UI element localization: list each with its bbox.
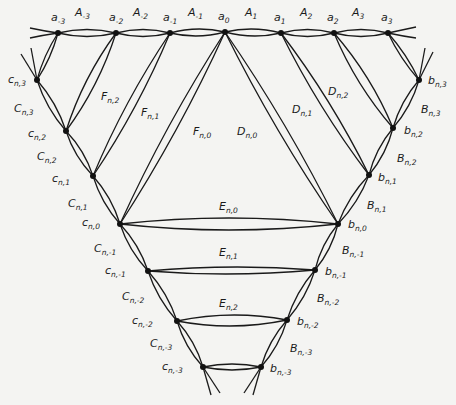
edge-B bbox=[261, 320, 287, 367]
edge-C bbox=[66, 131, 93, 176]
label-c: cn,-2 bbox=[132, 314, 153, 329]
edge-E bbox=[120, 218, 338, 224]
edge-C bbox=[120, 224, 148, 271]
label-A: A3 bbox=[351, 6, 365, 21]
edge-A bbox=[170, 32, 225, 36]
edge-E bbox=[177, 315, 287, 321]
label-c: cn,0 bbox=[82, 216, 100, 231]
label-c: cn,3 bbox=[8, 73, 26, 88]
labels-layer: a-3a-2a-1a0a1a2a3A-3A-2A-1A1A2A3cn,3cn,2… bbox=[8, 6, 447, 377]
vertex-b-1 bbox=[312, 267, 318, 273]
label-B: Bn,2 bbox=[397, 152, 417, 167]
label-A: A-1 bbox=[187, 6, 203, 21]
edge-C bbox=[120, 224, 148, 271]
edge-F bbox=[93, 33, 170, 176]
label-D: Dn,2 bbox=[328, 85, 349, 100]
label-C: Cn,-3 bbox=[150, 337, 173, 352]
vertex-a2 bbox=[331, 30, 337, 36]
label-b: bn,0 bbox=[348, 218, 367, 233]
label-a: a-2 bbox=[109, 11, 123, 26]
label-E: En,2 bbox=[219, 297, 238, 312]
label-b: bn,3 bbox=[428, 74, 447, 89]
edge-E bbox=[148, 267, 315, 271]
edge-C bbox=[93, 176, 120, 224]
edge-C-end bbox=[203, 367, 220, 393]
label-b: bn,1 bbox=[378, 171, 397, 186]
edge-B bbox=[287, 270, 315, 320]
label-A: A1 bbox=[244, 6, 257, 21]
edge-D bbox=[388, 33, 419, 80]
edge-E bbox=[148, 270, 315, 274]
edge-B bbox=[369, 128, 393, 175]
edge-A-end bbox=[388, 27, 416, 33]
edge-B-end bbox=[253, 367, 261, 395]
vertex-c1 bbox=[90, 173, 96, 179]
vertex-b-3 bbox=[258, 364, 264, 370]
edge-F bbox=[120, 32, 225, 224]
label-b: bn,-2 bbox=[297, 315, 319, 330]
label-A: A-2 bbox=[132, 6, 148, 21]
vertex-c3 bbox=[34, 77, 40, 83]
vertex-b1 bbox=[366, 172, 372, 178]
edge-A bbox=[225, 32, 281, 36]
vertex-c2 bbox=[63, 128, 69, 134]
vertex-c-1 bbox=[145, 268, 151, 274]
label-a: a2 bbox=[327, 11, 339, 26]
vertex-a-2 bbox=[113, 30, 119, 36]
edge-B bbox=[369, 128, 393, 175]
edge-C bbox=[37, 80, 66, 131]
label-a: a-1 bbox=[163, 11, 177, 26]
edge-C bbox=[37, 80, 66, 131]
label-C: Cn,1 bbox=[68, 197, 88, 212]
edge-E bbox=[203, 364, 261, 367]
vertex-c-3 bbox=[200, 364, 206, 370]
edge-F bbox=[37, 33, 58, 80]
label-c: cn,-1 bbox=[105, 264, 126, 279]
label-B: Bn,-1 bbox=[342, 244, 364, 259]
label-E: En,1 bbox=[219, 246, 238, 261]
edge-A bbox=[58, 33, 116, 37]
label-C: Cn,2 bbox=[37, 150, 57, 165]
label-A: A-3 bbox=[74, 6, 90, 21]
edge-A bbox=[58, 30, 116, 34]
label-D: Dn,0 bbox=[237, 125, 258, 140]
label-E: En,0 bbox=[219, 200, 238, 215]
label-F: Fn,2 bbox=[101, 90, 119, 105]
vertices-layer bbox=[34, 29, 422, 370]
label-c: cn,1 bbox=[52, 172, 70, 187]
edge-C bbox=[66, 131, 93, 176]
edge-B bbox=[338, 175, 369, 224]
label-D: Dn,1 bbox=[292, 103, 312, 118]
label-C: Cn,-2 bbox=[122, 290, 145, 305]
edge-D bbox=[334, 33, 393, 128]
edge-A bbox=[170, 29, 225, 33]
vertex-b-2 bbox=[284, 317, 290, 323]
edge-A bbox=[334, 33, 388, 37]
edge-E bbox=[177, 320, 287, 326]
label-C: Cn,-1 bbox=[94, 242, 116, 257]
label-B: Bn,1 bbox=[367, 199, 386, 214]
edge-B-end bbox=[244, 367, 261, 393]
vertex-a-1 bbox=[167, 30, 173, 36]
label-F: Fn,0 bbox=[193, 125, 211, 140]
edge-B bbox=[393, 80, 419, 128]
graph-diagram: a-3a-2a-1a0a1a2a3A-3A-2A-1A1A2A3cn,3cn,2… bbox=[0, 0, 456, 405]
edge-C bbox=[148, 271, 177, 321]
edge-F bbox=[66, 33, 116, 131]
graph-svg: a-3a-2a-1a0a1a2a3A-3A-2A-1A1A2A3cn,3cn,2… bbox=[0, 0, 456, 405]
edge-A bbox=[281, 33, 334, 37]
edge-D bbox=[388, 33, 419, 80]
label-A: A2 bbox=[299, 6, 313, 21]
vertex-c0 bbox=[117, 221, 123, 227]
label-c: cn,-3 bbox=[162, 360, 183, 375]
edge-D bbox=[334, 33, 393, 128]
label-b: bn,-1 bbox=[325, 265, 347, 280]
label-B: Bn,-2 bbox=[317, 292, 339, 307]
edge-B bbox=[393, 80, 419, 128]
label-B: Bn,-3 bbox=[290, 342, 312, 357]
edge-B bbox=[315, 224, 338, 270]
edge-A bbox=[334, 30, 388, 34]
edge-C-end bbox=[203, 367, 211, 395]
edge-F bbox=[93, 33, 170, 176]
label-F: Fn,1 bbox=[141, 106, 159, 121]
